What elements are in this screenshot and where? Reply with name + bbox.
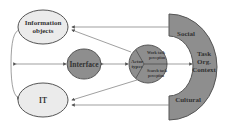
social-label: Social bbox=[177, 30, 195, 38]
actor-types-label-2: types bbox=[131, 64, 142, 69]
context-label: Context bbox=[192, 66, 216, 74]
task-label: Task bbox=[197, 50, 211, 58]
information-objects-label-1: Information bbox=[25, 19, 62, 27]
cultural-label: Cultural bbox=[175, 96, 201, 104]
interface-label: Interface bbox=[69, 60, 99, 69]
information-objects-label-2: objects bbox=[33, 27, 54, 35]
cognitive-framework-diagram: Information objects IT Interface Actor t… bbox=[0, 0, 229, 131]
org-label: Org. bbox=[197, 58, 211, 66]
search-task-label-2: perception bbox=[148, 74, 164, 78]
it-label: IT bbox=[39, 96, 47, 105]
work-task-label-2: perception bbox=[149, 56, 165, 60]
work-task-label-1: Work task bbox=[147, 50, 166, 55]
search-task-label-1: Search task bbox=[147, 68, 168, 73]
